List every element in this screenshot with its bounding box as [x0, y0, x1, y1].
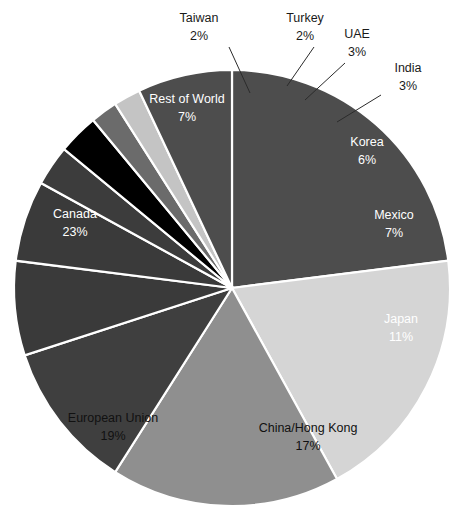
pie-label-value-japan: 11% — [389, 330, 413, 344]
pie-label-name-china-hong-kong: China/Hong Kong — [259, 421, 358, 435]
pie-label-value-mexico: 7% — [385, 226, 403, 240]
pie-label-turkey: Turkey2% — [286, 11, 324, 43]
pie-label-value-korea: 6% — [358, 153, 376, 167]
pie-slices-group — [14, 70, 450, 506]
pie-label-taiwan: Taiwan2% — [180, 11, 219, 43]
pie-label-name-japan: Japan — [384, 312, 418, 326]
pie-label-value-european-union: 19% — [100, 429, 125, 443]
pie-label-name-rest-of-world: Rest of World — [149, 92, 225, 106]
pie-label-value-turkey: 2% — [296, 29, 314, 43]
pie-label-value-rest-of-world: 7% — [178, 110, 196, 124]
pie-label-name-turkey: Turkey — [286, 11, 324, 25]
pie-chart-canvas: Canada23%European Union19%China/Hong Kon… — [0, 0, 457, 521]
pie-label-value-taiwan: 2% — [190, 29, 208, 43]
pie-label-value-india: 3% — [399, 79, 417, 93]
pie-label-india: India3% — [394, 61, 421, 93]
pie-label-name-european-union: European Union — [68, 411, 158, 425]
pie-label-value-china-hong-kong: 17% — [295, 439, 320, 453]
pie-label-name-india: India — [394, 61, 421, 75]
pie-label-name-korea: Korea — [350, 135, 383, 149]
pie-label-value-canada: 23% — [62, 225, 87, 239]
pie-label-name-mexico: Mexico — [374, 208, 414, 222]
pie-chart: Canada23%European Union19%China/Hong Kon… — [0, 0, 457, 521]
pie-label-value-uae: 3% — [348, 45, 366, 59]
pie-label-uae: UAE3% — [344, 27, 370, 59]
pie-label-name-uae: UAE — [344, 27, 370, 41]
pie-slice-canada[interactable] — [232, 70, 448, 288]
pie-label-name-taiwan: Taiwan — [180, 11, 219, 25]
pie-label-name-canada: Canada — [53, 207, 97, 221]
